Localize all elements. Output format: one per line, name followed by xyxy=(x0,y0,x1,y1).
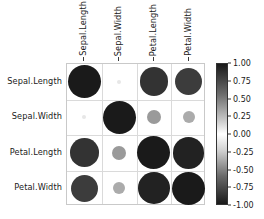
correlation-circle xyxy=(147,110,161,124)
column-label-petal-length: Petal.Length xyxy=(136,0,171,56)
colorbar-tick-label: -0.75 xyxy=(233,183,254,192)
colorbar-tick-mark xyxy=(228,63,231,64)
row-label-petal-width: Petal.Width xyxy=(0,170,62,206)
matrix-cell xyxy=(171,100,206,136)
correlation-circle xyxy=(173,137,205,169)
correlation-circle xyxy=(172,172,205,205)
colorbar xyxy=(216,63,228,205)
matrix-plot-area xyxy=(66,63,205,205)
column-tick-mark xyxy=(118,57,119,61)
column-label-text: Sepal.Length xyxy=(79,1,87,56)
matrix-cell xyxy=(137,171,172,207)
colorbar-tick-label: 0.00 xyxy=(233,130,251,139)
colorbar-tick-mark xyxy=(228,134,231,135)
matrix-cell xyxy=(137,100,172,136)
matrix-cell xyxy=(102,64,137,100)
matrix-cell xyxy=(67,64,102,100)
matrix-cell xyxy=(67,100,102,136)
correlation-circle xyxy=(112,146,126,160)
matrix-cell xyxy=(67,171,102,207)
colorbar-tick-axis: 1.000.750.500.250.00-0.25-0.50-0.75-1.00 xyxy=(228,63,264,205)
colorbar-tick: 0.75 xyxy=(228,76,251,85)
colorbar-tick-mark xyxy=(228,80,231,81)
row-label-text: Sepal.Width xyxy=(12,111,62,121)
matrix-cell xyxy=(171,64,206,100)
column-label-sepal-width: Sepal.Width xyxy=(101,0,136,56)
column-tick-mark xyxy=(83,57,84,61)
correlation-circle xyxy=(103,101,136,134)
column-tick-mark xyxy=(188,57,189,61)
correlation-matrix-figure: Sepal.LengthSepal.WidthPetal.LengthPetal… xyxy=(0,0,264,219)
column-label-petal-width: Petal.Width xyxy=(170,0,205,56)
colorbar-tick: 0.25 xyxy=(228,112,251,121)
correlation-circle xyxy=(70,138,99,167)
colorbar-tick-mark xyxy=(228,205,231,206)
correlation-circle xyxy=(175,68,202,95)
colorbar-tick: 0.00 xyxy=(228,130,251,139)
row-label-text: Petal.Length xyxy=(10,147,62,157)
column-label-text: Sepal.Width xyxy=(114,6,122,56)
colorbar-tick-mark xyxy=(228,98,231,99)
matrix-cell xyxy=(102,171,137,207)
correlation-circle xyxy=(183,111,195,123)
correlation-circle xyxy=(140,67,169,96)
row-axis: Sepal.LengthSepal.WidthPetal.LengthPetal… xyxy=(0,63,64,205)
matrix-cell xyxy=(171,135,206,171)
matrix-cell xyxy=(102,100,137,136)
row-label-sepal-length: Sepal.Length xyxy=(0,63,62,99)
colorbar-tick-label: 0.50 xyxy=(233,94,251,103)
correlation-circle xyxy=(138,172,170,204)
correlation-circle xyxy=(82,115,86,119)
correlation-circle xyxy=(71,175,98,202)
correlation-circle xyxy=(137,136,170,169)
colorbar-tick-mark xyxy=(228,187,231,188)
colorbar-tick-mark xyxy=(228,116,231,117)
correlation-circle xyxy=(117,80,121,84)
colorbar-tick-label: 0.75 xyxy=(233,76,251,85)
matrix-cell xyxy=(67,135,102,171)
colorbar-tick-label: 1.00 xyxy=(233,59,251,68)
column-tick-mark xyxy=(153,57,154,61)
column-label-sepal-length: Sepal.Length xyxy=(66,0,101,56)
colorbar-tick-mark xyxy=(228,169,231,170)
colorbar-tick: -0.25 xyxy=(228,147,254,156)
column-label-text: Petal.Width xyxy=(184,8,192,56)
row-label-sepal-width: Sepal.Width xyxy=(0,99,62,135)
column-label-text: Petal.Length xyxy=(149,4,157,56)
colorbar-tick-label: 0.25 xyxy=(233,112,251,121)
matrix-cell xyxy=(171,171,206,207)
colorbar-tick: -0.75 xyxy=(228,183,254,192)
row-label-text: Sepal.Length xyxy=(7,76,62,86)
matrix-cell xyxy=(102,135,137,171)
matrix-cell xyxy=(137,135,172,171)
colorbar-tick: -0.50 xyxy=(228,165,254,174)
colorbar-tick-label: -0.25 xyxy=(233,147,254,156)
colorbar-tick-mark xyxy=(228,151,231,152)
colorbar-tick-label: -1.00 xyxy=(233,201,254,210)
colorbar-tick-label: -0.50 xyxy=(233,165,254,174)
colorbar-tick: 1.00 xyxy=(228,59,251,68)
row-label-text: Petal.Width xyxy=(14,182,62,192)
correlation-circle xyxy=(68,65,101,98)
row-label-petal-length: Petal.Length xyxy=(0,134,62,170)
colorbar-gradient xyxy=(216,63,228,205)
correlation-circle xyxy=(113,182,125,194)
matrix-cell xyxy=(137,64,172,100)
colorbar-tick: -1.00 xyxy=(228,201,254,210)
column-axis: Sepal.LengthSepal.WidthPetal.LengthPetal… xyxy=(66,0,205,63)
colorbar-tick: 0.50 xyxy=(228,94,251,103)
